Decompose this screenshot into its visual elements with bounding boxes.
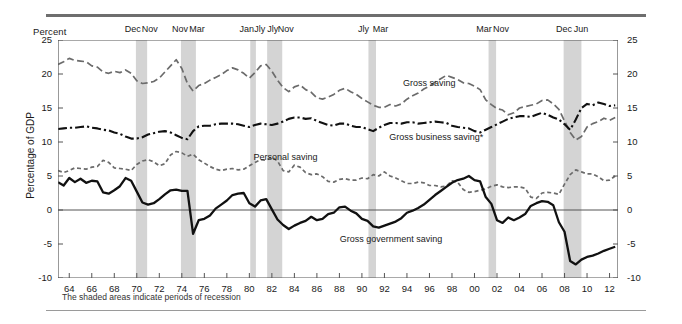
recession-month-label: Mar	[369, 24, 393, 34]
x-tick-label: 86	[307, 283, 327, 294]
recession-month-label: Nov	[489, 24, 513, 34]
x-tick-label: 90	[352, 283, 372, 294]
y-axis-title: Percentage of GDP	[25, 66, 36, 246]
y-tick-label-right: 15	[627, 102, 653, 113]
recession-month-label: Jun	[569, 24, 593, 34]
x-tick-label: 84	[284, 283, 304, 294]
y-tick-label-left: 0	[26, 204, 52, 215]
x-tick-label: 96	[419, 283, 439, 294]
chart-plot-area	[58, 40, 618, 278]
y-tick-label-right: 5	[627, 170, 653, 181]
x-tick-label: 80	[239, 283, 259, 294]
x-tick-label: 74	[172, 283, 192, 294]
y-tick-label-right: -10	[627, 272, 653, 283]
top-rule	[46, 14, 646, 17]
recession-month-label: Mar	[185, 24, 209, 34]
x-tick-label: 82	[262, 283, 282, 294]
x-tick-label: 72	[149, 283, 169, 294]
x-tick-label: 66	[82, 283, 102, 294]
x-tick-label: 12	[600, 283, 620, 294]
series-annotation: Personal saving	[253, 152, 317, 162]
recession-band	[489, 40, 497, 278]
x-tick-label: 92	[374, 283, 394, 294]
chart-svg	[58, 40, 618, 278]
series-annotation: Gross business saving*	[389, 132, 483, 142]
y-tick-label-right: 0	[627, 204, 653, 215]
x-tick-label: 70	[127, 283, 147, 294]
y-tick-label-left: -10	[26, 272, 52, 283]
x-tick-label: 94	[397, 283, 417, 294]
x-tick-label: 88	[329, 283, 349, 294]
x-tick-label: 78	[217, 283, 237, 294]
x-tick-label: 98	[442, 283, 462, 294]
recession-band	[181, 40, 196, 278]
y-tick-label-left: -5	[26, 238, 52, 249]
y-tick-label-right: -5	[627, 238, 653, 249]
x-tick-label: 08	[555, 283, 575, 294]
x-tick-label: 68	[104, 283, 124, 294]
recession-band	[136, 40, 147, 278]
y-tick-label-left: 10	[26, 136, 52, 147]
bottom-rule	[46, 310, 646, 311]
x-tick-label: 00	[464, 283, 484, 294]
y-tick-label-left: 25	[26, 34, 52, 45]
x-tick-label: 02	[487, 283, 507, 294]
x-tick-label: 64	[59, 283, 79, 294]
x-tick-label: 06	[532, 283, 552, 294]
recession-month-label: Nov	[274, 24, 298, 34]
series-annotation: Gross government saving	[340, 234, 443, 244]
y-tick-label-left: 20	[26, 68, 52, 79]
y-tick-label-left: 15	[26, 102, 52, 113]
y-tick-label-right: 10	[627, 136, 653, 147]
x-tick-label: 10	[577, 283, 597, 294]
recession-month-label: Nov	[138, 24, 162, 34]
y-tick-label-left: 5	[26, 170, 52, 181]
x-tick-label: 04	[510, 283, 530, 294]
series-annotation: Gross saving	[403, 78, 456, 88]
y-tick-label-right: 20	[627, 68, 653, 79]
x-tick-label: 76	[194, 283, 214, 294]
y-tick-label-right: 25	[627, 34, 653, 45]
